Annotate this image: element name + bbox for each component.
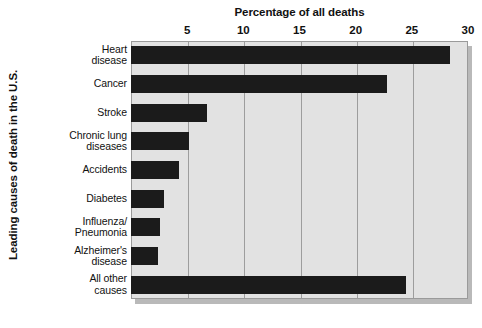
x-tick-label-5: 5 [184,24,190,36]
x-axis-tick-labels: 51015202530 [0,24,482,40]
bar [131,190,164,208]
category-label: Heartdisease [22,44,127,67]
category-label-line: disease [22,256,127,268]
category-label: Cancer [22,78,127,90]
category-label-line: Diabetes [22,193,127,205]
x-tick-label-25: 25 [405,24,418,36]
bar-chart: Percentage of all deaths Leading causes … [0,0,482,328]
category-label: All othercauses [22,273,127,296]
category-label: Accidents [22,164,127,176]
category-label: Diabetes [22,193,127,205]
category-label-line: Stroke [22,107,127,119]
y-axis-title: Leading causes of death in the U.S. [7,70,19,260]
bar [131,46,450,64]
category-label-line: Pneumonia [22,227,127,239]
bar [131,75,387,93]
category-label-line: disease [22,55,127,67]
bar [131,247,158,265]
category-label-line: diseases [22,141,127,153]
bar [131,218,160,236]
category-label: Influenza/Pneumonia [22,216,127,239]
x-tick-label-20: 20 [349,24,362,36]
x-tick-label-10: 10 [237,24,250,36]
y-axis-category-labels: HeartdiseaseCancerStrokeChronic lungdise… [22,41,127,299]
category-label: Alzheimer'sdisease [22,245,127,268]
category-label-line: causes [22,285,127,297]
x-tick-label-30: 30 [462,24,475,36]
bar [131,276,406,294]
category-label-line: Accidents [22,164,127,176]
category-label: Chronic lungdiseases [22,130,127,153]
bar [131,104,207,122]
bar [131,132,189,150]
category-label-line: All other [22,273,127,285]
category-label-line: Cancer [22,78,127,90]
x-tick-label-15: 15 [293,24,306,36]
bar [131,161,179,179]
chart-title: Percentage of all deaths [131,6,468,18]
bars-layer [131,41,468,299]
category-label: Stroke [22,107,127,119]
